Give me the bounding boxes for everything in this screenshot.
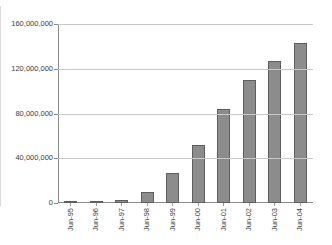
x-axis-tick-label: Jun-02 bbox=[245, 208, 253, 231]
gridline bbox=[58, 69, 313, 70]
x-label-slot: Jun-97 bbox=[109, 206, 135, 245]
bar bbox=[217, 109, 230, 203]
x-label-slot: Jun-04 bbox=[288, 206, 314, 245]
x-axis-tick-label: Jun-98 bbox=[143, 208, 151, 231]
plot-area bbox=[58, 24, 313, 203]
y-axis-tick bbox=[54, 69, 58, 70]
x-axis-tick-label: Jun-96 bbox=[92, 208, 100, 231]
x-axis-tick-label: Jun-01 bbox=[220, 208, 228, 231]
gridline bbox=[58, 114, 313, 115]
y-axis-labels: 040,000,00080,000,000120,000,000160,000,… bbox=[0, 0, 58, 245]
y-axis-tick-label: 120,000,000 bbox=[11, 65, 53, 73]
x-axis-tick-label: Jun-04 bbox=[296, 208, 304, 231]
bar bbox=[141, 192, 154, 203]
x-label-slot: Jun-00 bbox=[186, 206, 212, 245]
x-axis-tick-label: Jun-97 bbox=[118, 208, 126, 231]
x-label-slot: Jun-96 bbox=[84, 206, 110, 245]
y-axis-tick bbox=[54, 24, 58, 25]
bar bbox=[243, 80, 256, 203]
x-label-slot: Jun-02 bbox=[237, 206, 263, 245]
bar bbox=[294, 43, 307, 203]
bar bbox=[268, 61, 281, 203]
bar bbox=[192, 145, 205, 203]
bar-chart: 040,000,00080,000,000120,000,000160,000,… bbox=[0, 0, 332, 245]
x-label-slot: Jun-01 bbox=[211, 206, 237, 245]
y-axis-tick bbox=[54, 158, 58, 159]
x-axis-labels: Jun-95Jun-96Jun-97Jun-98Jun-99Jun-00Jun-… bbox=[58, 206, 313, 245]
gridline bbox=[58, 24, 313, 25]
x-label-slot: Jun-98 bbox=[135, 206, 161, 245]
y-axis-tick bbox=[54, 114, 58, 115]
x-axis-tick-label: Jun-03 bbox=[271, 208, 279, 231]
x-axis-tick-label: Jun-95 bbox=[67, 208, 75, 231]
x-label-slot: Jun-03 bbox=[262, 206, 288, 245]
x-axis-tick-label: Jun-00 bbox=[194, 208, 202, 231]
x-axis-tick-label: Jun-99 bbox=[169, 208, 177, 231]
x-label-slot: Jun-95 bbox=[58, 206, 84, 245]
y-axis-tick-label: 40,000,000 bbox=[15, 154, 53, 162]
y-axis-tick-label: 0 bbox=[49, 199, 53, 207]
x-label-slot: Jun-99 bbox=[160, 206, 186, 245]
y-axis-tick-label: 80,000,000 bbox=[15, 110, 53, 118]
gridline bbox=[58, 158, 313, 159]
bar bbox=[166, 173, 179, 203]
y-axis-tick-label: 160,000,000 bbox=[11, 20, 53, 28]
